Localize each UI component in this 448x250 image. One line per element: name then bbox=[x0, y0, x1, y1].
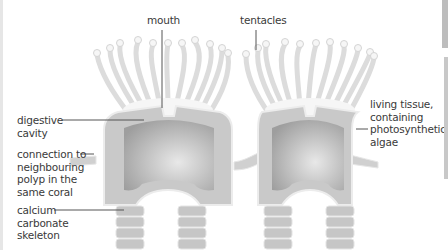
label-digestive-cavity: digestive cavity bbox=[17, 114, 63, 139]
skeleton-left bbox=[116, 206, 206, 249]
label-connection: connection to neighbouring polyp in the … bbox=[17, 148, 86, 198]
label-skeleton: calcium carbonate skeleton bbox=[17, 204, 68, 242]
label-living-tissue: living tissue, containing photosynthetic… bbox=[370, 98, 446, 148]
scrollbar-thumb-top[interactable] bbox=[442, 0, 448, 48]
coral-polyp-diagram: mouth tentacles digestive cavity connect… bbox=[0, 0, 448, 250]
skeleton-right bbox=[264, 206, 354, 249]
left-polyp bbox=[94, 37, 233, 250]
scrollbar-thumb[interactable] bbox=[444, 57, 448, 179]
label-mouth: mouth bbox=[147, 14, 180, 27]
right-polyp bbox=[243, 39, 378, 250]
label-tentacles: tentacles bbox=[240, 14, 287, 27]
digestive-cavity-right bbox=[272, 120, 344, 190]
digestive-cavity-left bbox=[124, 120, 214, 190]
